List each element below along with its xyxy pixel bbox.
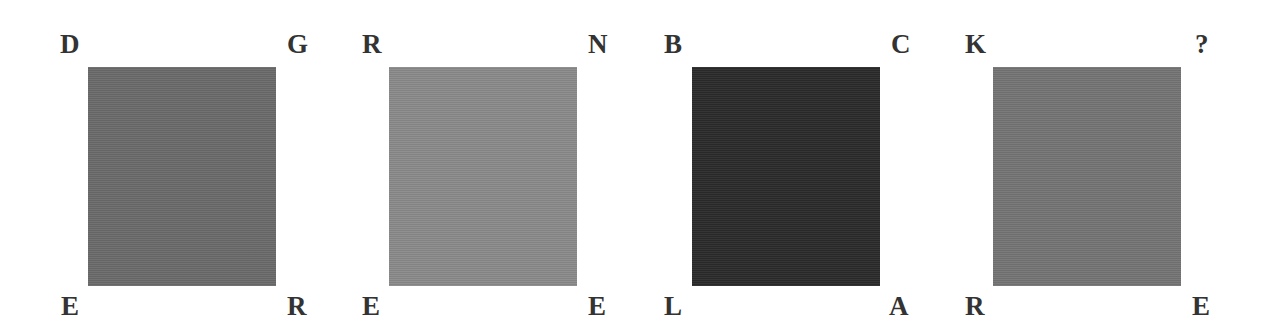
corner-label-bottom-right: E [1192, 293, 1210, 320]
panel-4: K ? R E [0, 0, 300, 335]
corner-label-bottom-left: L [664, 293, 682, 320]
gray-square [389, 67, 577, 286]
corner-label-top-right: C [891, 31, 911, 58]
gray-square [993, 67, 1181, 286]
corner-label-bottom-left: R [965, 293, 985, 320]
corner-label-top-left: B [664, 31, 682, 58]
corner-label-bottom-right: E [588, 293, 606, 320]
corner-label-top-left: K [965, 31, 986, 58]
dark-square [692, 67, 880, 286]
corner-label-bottom-right: A [889, 293, 909, 320]
corner-label-top-left: R [362, 31, 382, 58]
question-mark-label: ? [1195, 31, 1209, 58]
corner-label-top-right: N [588, 31, 608, 58]
corner-label-bottom-left: E [362, 293, 380, 320]
